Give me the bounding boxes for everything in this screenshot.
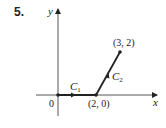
point-2-0-label: (2, 0): [88, 98, 110, 110]
point-2-0: [94, 93, 98, 97]
origin-label: 0: [49, 98, 54, 109]
x-axis-label: x: [152, 96, 158, 108]
problem-number: 5.: [14, 5, 24, 19]
y-axis-label: y: [47, 5, 53, 17]
point-3-2-label: (3, 2): [113, 37, 135, 49]
curve-c2-label: C2: [112, 70, 123, 84]
curve-c1-label: C1: [70, 80, 81, 94]
origin-point: [56, 93, 60, 97]
point-3-2: [118, 50, 122, 54]
c1-direction-arrow-icon: [71, 93, 76, 98]
diagram: 5. y x 0 C1 C2 (2, 0) (3, 2): [0, 0, 166, 128]
